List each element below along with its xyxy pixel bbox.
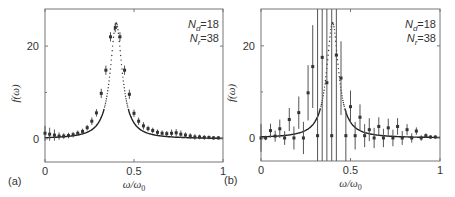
x-tick-label: 0 xyxy=(258,164,264,176)
curve-dot xyxy=(108,80,109,81)
curve-dot xyxy=(337,59,338,60)
curve-dot xyxy=(126,100,127,101)
curve-dot xyxy=(106,96,107,97)
curve-dot xyxy=(327,55,328,56)
data-point xyxy=(72,133,75,136)
data-point xyxy=(44,132,47,135)
data-point xyxy=(278,127,281,130)
curve-dot xyxy=(108,84,109,85)
data-point xyxy=(424,134,427,137)
curve-dot xyxy=(105,103,106,104)
curve-dot xyxy=(320,106,321,107)
data-point xyxy=(207,136,210,139)
curve-dot xyxy=(111,59,112,60)
curve-dot xyxy=(123,80,124,81)
x-axis-label-a: ω/ω0 xyxy=(123,178,146,193)
curve-dot xyxy=(121,64,122,65)
curve-dot xyxy=(328,45,329,46)
curve-dot xyxy=(105,100,106,101)
curve-dot xyxy=(107,90,108,91)
curve-dot xyxy=(110,68,111,69)
panel-a: 00.51020 ω/ω0 f(ω) (a) Nd=18 Nr=38 xyxy=(8,9,226,193)
annotation-nr-b: Nr=38 xyxy=(407,32,436,47)
data-point xyxy=(147,127,150,130)
curve-dot xyxy=(342,97,343,98)
data-point xyxy=(363,134,366,137)
curve-dot xyxy=(328,50,329,51)
curve-dot xyxy=(106,98,107,99)
data-point xyxy=(396,125,399,128)
data-point xyxy=(335,54,338,57)
panel-b: 00.51020 ω/ω0 f(ω) (b) Nd=18 Nr=38 xyxy=(224,9,443,192)
curve-dot xyxy=(109,73,110,74)
data-point xyxy=(349,105,352,108)
data-point xyxy=(429,136,432,139)
data-point xyxy=(86,126,89,129)
data-point xyxy=(321,56,324,59)
data-point xyxy=(358,116,361,119)
data-point xyxy=(156,131,159,134)
curve-dot xyxy=(109,76,110,77)
curve-dot xyxy=(325,80,326,81)
curve-dot xyxy=(117,26,118,27)
data-point xyxy=(373,136,376,139)
curve-dot xyxy=(120,55,121,56)
data-point xyxy=(274,135,277,138)
data-point xyxy=(302,136,305,139)
data-point xyxy=(283,136,286,139)
panel-label-b: (b) xyxy=(224,174,237,186)
curve-dot xyxy=(108,87,109,88)
data-point xyxy=(292,136,295,139)
curve-dot xyxy=(127,104,128,105)
data-point xyxy=(391,136,394,139)
curve-dot xyxy=(337,64,338,65)
data-point xyxy=(90,120,93,123)
curve-dot xyxy=(323,90,324,91)
curve-dot xyxy=(124,93,125,94)
curve-dot xyxy=(112,50,113,51)
data-point xyxy=(114,26,117,29)
curve-dot xyxy=(127,106,128,107)
data-point xyxy=(410,136,413,139)
curve-dot xyxy=(343,104,344,105)
curve-dot xyxy=(124,90,125,91)
data-point xyxy=(316,134,319,137)
data-point xyxy=(67,134,70,137)
curve-dot xyxy=(125,98,126,99)
curve-dot xyxy=(343,102,344,103)
data-point xyxy=(330,134,333,137)
y-tick-label: 20 xyxy=(243,40,255,52)
curve-dot xyxy=(112,45,113,46)
y-tick-label: 0 xyxy=(33,133,39,145)
data-point xyxy=(175,131,178,134)
curve-dot xyxy=(113,33,114,34)
curve-dot xyxy=(333,26,334,27)
curve-dot xyxy=(104,106,105,107)
curve-dot xyxy=(117,29,118,30)
curve-dot xyxy=(124,87,125,88)
data-point xyxy=(133,112,136,115)
data-point xyxy=(217,136,220,139)
curve-dot xyxy=(116,24,117,25)
data-point xyxy=(288,118,291,121)
curve-dot xyxy=(113,37,114,38)
curve-dot xyxy=(107,93,108,94)
data-point xyxy=(76,132,79,135)
curve-dot xyxy=(323,92,324,93)
data-point xyxy=(368,128,371,131)
curve-dot xyxy=(110,64,111,65)
data-point xyxy=(184,134,187,137)
x-tick-label: 0.5 xyxy=(343,164,358,176)
data-point xyxy=(344,134,347,137)
curve-dot xyxy=(329,36,330,37)
data-point xyxy=(297,111,300,114)
data-point xyxy=(81,130,84,133)
curve-dot xyxy=(338,68,339,69)
x-tick-label: 0.5 xyxy=(126,165,141,177)
curve-dot xyxy=(120,50,121,51)
data-point xyxy=(406,128,409,131)
data-point xyxy=(104,69,107,72)
data-point xyxy=(179,133,182,136)
curve-dot xyxy=(122,73,123,74)
x-axis-label-b: ω/ω0 xyxy=(339,177,362,192)
